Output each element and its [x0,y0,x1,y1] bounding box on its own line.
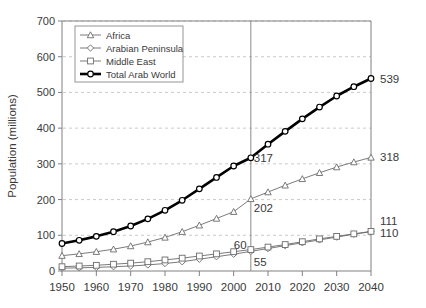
y-tick-label-0: 0 [49,265,55,277]
marker-middle-east-1955 [76,263,82,269]
marker-total-arab-world-2020 [300,116,306,122]
x-tick-label-1970: 1970 [118,281,144,293]
x-tick-label-2020: 2020 [290,281,316,293]
marker-africa-2005 [248,196,254,202]
legend-marker-3 [88,71,94,77]
marker-total-arab-world-2000 [231,163,237,169]
y-tick-label-700: 700 [37,15,55,27]
marker-total-arab-world-1950 [59,241,65,247]
marker-middle-east-2030 [334,233,340,239]
marker-middle-east-1990 [196,253,202,259]
x-tick-label-1990: 1990 [187,281,213,293]
x-tick-label-1960: 1960 [84,281,110,293]
marker-total-arab-world-2035 [351,84,357,90]
marker-middle-east-2005 [248,247,254,253]
marker-total-arab-world-1965 [111,229,117,235]
legend-label-0: Africa [106,30,131,41]
mid-label-middleeast_mid: 60 [234,239,247,251]
marker-total-arab-world-2015 [282,129,288,135]
marker-africa-2010 [265,189,271,195]
marker-middle-east-1970 [128,260,134,266]
marker-africa-2025 [316,170,322,176]
marker-total-arab-world-2010 [265,141,271,147]
marker-total-arab-world-1985 [179,197,185,203]
mid-label-total_mid: 317 [254,152,273,164]
marker-africa-1985 [179,229,185,235]
x-tick-label-2040: 2040 [358,281,384,293]
end-label-middleeast_end: 111 [380,215,397,227]
marker-middle-east-1980 [162,257,168,263]
x-tick-label-2010: 2010 [255,281,281,293]
series-line-middle-east [62,231,371,266]
legend-marker-2 [88,58,94,64]
marker-africa-2040 [368,154,374,160]
marker-middle-east-2015 [282,242,288,248]
marker-total-arab-world-2025 [317,104,323,110]
x-tick-label-1950: 1950 [49,281,75,293]
end-label-africa_end: 318 [380,151,399,163]
mid-label-arabian_mid: 55 [254,256,267,268]
y-tick-label-400: 400 [37,122,55,134]
marker-middle-east-2010 [265,244,271,250]
marker-total-arab-world-1995 [214,175,220,181]
series-line-africa [62,157,371,255]
marker-middle-east-2025 [317,236,323,242]
marker-total-arab-world-2040 [368,76,374,82]
legend-label-2: Middle East [106,56,156,67]
mid-label-africa_mid: 202 [254,202,273,214]
x-tick-label-2000: 2000 [221,281,247,293]
marker-total-arab-world-1980 [162,207,168,213]
y-tick-label-500: 500 [37,86,55,98]
marker-middle-east-1960 [93,262,99,268]
y-tick-label-600: 600 [37,51,55,63]
marker-total-arab-world-1975 [145,216,151,222]
legend-label-1: Arabian Peninsula [106,43,184,54]
marker-africa-2015 [282,182,288,188]
marker-total-arab-world-1955 [76,237,82,243]
chart-canvas: 0100200300400500600700195019601970198019… [0,0,426,308]
x-tick-label-1980: 1980 [152,281,178,293]
y-tick-label-200: 200 [37,194,55,206]
marker-africa-1995 [213,215,219,221]
marker-total-arab-world-2030 [334,93,340,99]
end-label-arabian_end: 110 [380,227,398,239]
end-label-total_end: 539 [380,73,399,85]
population-chart: 0100200300400500600700195019601970198019… [0,0,426,308]
marker-middle-east-1950 [59,264,65,270]
marker-africa-2020 [299,176,305,182]
marker-total-arab-world-1960 [94,234,100,240]
y-axis-title: Population (millions) [6,94,18,198]
marker-africa-2000 [230,209,236,215]
marker-total-arab-world-2005 [248,155,254,161]
marker-africa-1990 [196,222,202,228]
marker-middle-east-1985 [179,255,185,261]
marker-middle-east-2020 [299,239,305,245]
marker-total-arab-world-1970 [128,223,134,229]
marker-middle-east-1975 [145,259,151,265]
marker-middle-east-1965 [111,261,117,267]
marker-total-arab-world-1990 [197,186,203,192]
x-tick-label-2030: 2030 [324,281,350,293]
legend-label-3: Total Arab World [106,69,176,80]
marker-middle-east-2035 [351,231,357,237]
y-tick-label-100: 100 [37,229,55,241]
marker-middle-east-2040 [368,228,374,234]
y-tick-label-300: 300 [37,158,55,170]
marker-middle-east-1995 [214,251,220,257]
